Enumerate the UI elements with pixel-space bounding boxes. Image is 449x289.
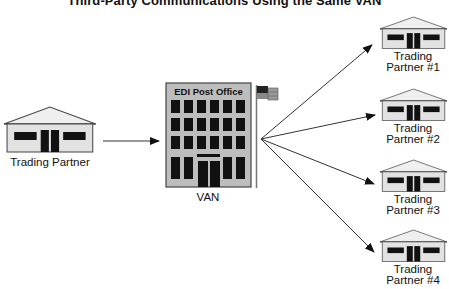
partner-label-line2: Partner #3 xyxy=(378,205,448,216)
diagram-canvas: Third-Party Communications Using the Sam… xyxy=(0,0,449,289)
building-sign: EDI Post Office xyxy=(166,86,251,97)
house-icon xyxy=(380,17,447,49)
house-icon xyxy=(4,107,96,152)
house-icon xyxy=(380,230,447,262)
arrow-van-to-partner-2 xyxy=(261,115,375,139)
partner-label-line2: Partner #1 xyxy=(378,62,448,73)
arrow-van-to-partner-4 xyxy=(261,139,374,252)
van-label: VAN xyxy=(168,192,248,203)
source-label: Trading Partner xyxy=(0,157,100,168)
partner-label-line2: Partner #2 xyxy=(378,134,448,145)
partner-label-line2: Partner #4 xyxy=(378,275,448,286)
arrow-van-to-partner-3 xyxy=(261,139,374,184)
house-icon xyxy=(380,160,447,192)
house-icon xyxy=(380,89,447,121)
office-building-icon xyxy=(166,83,251,187)
